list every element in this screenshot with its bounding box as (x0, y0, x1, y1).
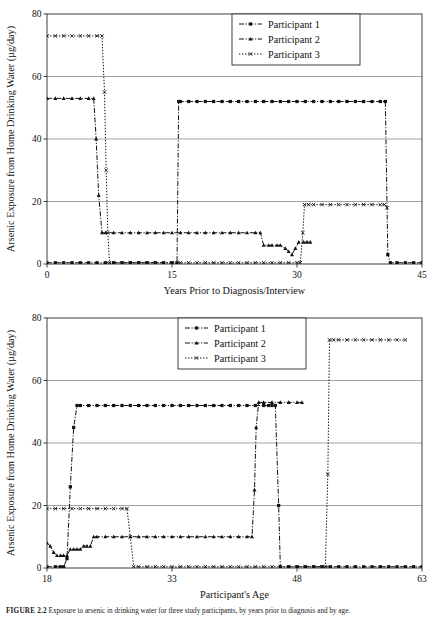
x-tick-label: 63 (417, 574, 427, 584)
series-marker-triangle (65, 553, 69, 557)
series-marker-square (312, 100, 315, 103)
y-tick-label: 60 (32, 376, 42, 386)
series-line (47, 102, 422, 263)
series-marker-x (332, 338, 335, 341)
series-marker-square (104, 261, 107, 264)
series-marker-square (62, 565, 65, 568)
x-tick-label: 18 (42, 574, 52, 584)
series-layer (45, 34, 424, 264)
series-marker-x (112, 507, 115, 510)
series-marker-square (170, 404, 173, 407)
series-marker-square (195, 326, 198, 329)
series-line (47, 402, 302, 555)
series-marker-square (204, 404, 207, 407)
series-marker-square (287, 100, 290, 103)
series-marker-square (70, 261, 73, 264)
x-axis-label: Years Prior to Diagnosis/Interview (164, 285, 306, 296)
legend-label: Participant 2 (268, 34, 320, 45)
series-participant-2 (45, 96, 312, 256)
legend-label: Participant 1 (214, 323, 266, 334)
series-marker-square (404, 261, 407, 264)
series-marker-triangle (45, 541, 49, 545)
series-marker-square (187, 404, 190, 407)
x-axis: 0153045 (45, 264, 427, 280)
series-marker-square (370, 565, 373, 568)
series-marker-square (386, 253, 389, 256)
series-marker-square (229, 100, 232, 103)
series-marker-square (162, 404, 165, 407)
series-marker-square (245, 100, 248, 103)
series-layer (45, 338, 424, 568)
x-tick-label: 48 (292, 574, 302, 584)
y-axis-label: Arsenic Exposure from Home Drinking Wate… (5, 26, 17, 252)
series-marker-square (404, 565, 407, 568)
series-marker-square (337, 565, 340, 568)
series-participant-2 (45, 400, 304, 557)
series-marker-x (79, 34, 82, 37)
series-marker-square (79, 404, 82, 407)
series-marker-square (389, 261, 392, 264)
series-marker-triangle (253, 488, 257, 492)
series-marker-triangle (293, 246, 297, 250)
series-marker-square (420, 261, 423, 264)
legend-label: Participant 3 (268, 49, 320, 60)
series-marker-x (379, 203, 382, 206)
series-marker-square (337, 100, 340, 103)
x-axis: 18334863 (42, 568, 427, 584)
arsenic-vs-age-chart: 02040608018334863Participant's AgeArseni… (0, 300, 438, 605)
series-marker-square (112, 404, 115, 407)
gridlines (47, 381, 422, 506)
series-marker-triangle (97, 193, 101, 197)
series-marker-x (70, 34, 73, 37)
series-marker-triangle (170, 231, 174, 235)
series-marker-square (354, 100, 357, 103)
series-marker-triangle (258, 231, 262, 235)
series-marker-x (354, 338, 357, 341)
series-marker-square (145, 404, 148, 407)
figure-caption: FIGURE 2.2 Exposure to arsenic in drinki… (6, 607, 434, 617)
series-marker-square (262, 100, 265, 103)
chart-bottom-block: 02040608018334863Participant's AgeArseni… (0, 300, 438, 605)
y-tick-label: 20 (32, 197, 42, 207)
series-marker-square (254, 404, 257, 407)
legend: Participant 1Participant 2Participant 3 (232, 14, 360, 65)
series-marker-triangle (203, 535, 207, 539)
series-marker-square (195, 404, 198, 407)
series-marker-square (120, 404, 123, 407)
series-marker-square (179, 404, 182, 407)
series-marker-x (79, 507, 82, 510)
series-line (47, 406, 422, 567)
y-tick-label: 80 (32, 9, 42, 19)
y-axis-label: Arsenic Exposure from Home Drinking Wate… (5, 330, 17, 556)
series-marker-square (295, 100, 298, 103)
series-marker-square (62, 261, 65, 264)
series-marker-square (129, 404, 132, 407)
series-marker-square (59, 565, 62, 568)
series-marker-triangle (283, 246, 287, 250)
series-marker-square (245, 404, 248, 407)
series-marker-square (320, 100, 323, 103)
series-marker-square (220, 100, 223, 103)
series-marker-x (70, 507, 73, 510)
x-tick-label: 30 (292, 270, 302, 280)
arsenic-vs-years-prior-chart: 0204060800153045Years Prior to Diagnosis… (0, 0, 438, 300)
series-marker-square (412, 565, 415, 568)
legend-label: Participant 2 (214, 338, 266, 349)
series-marker-square (195, 100, 198, 103)
y-tick-label: 20 (32, 501, 42, 511)
series-marker-x (395, 338, 398, 341)
series-marker-square (212, 404, 215, 407)
series-line (47, 340, 405, 567)
series-marker-x (100, 34, 103, 37)
series-marker-triangle (162, 231, 166, 235)
y-tick-label: 40 (32, 134, 42, 144)
series-marker-square (87, 261, 90, 264)
series-marker-square (345, 565, 348, 568)
legend-label: Participant 1 (268, 19, 320, 30)
series-marker-x (404, 338, 407, 341)
series-marker-square (370, 100, 373, 103)
figure-caption-label: FIGURE 2.2 (6, 607, 47, 615)
x-tick-label: 45 (417, 270, 427, 280)
x-axis-label: Participant's Age (200, 589, 269, 600)
series-marker-square (137, 404, 140, 407)
